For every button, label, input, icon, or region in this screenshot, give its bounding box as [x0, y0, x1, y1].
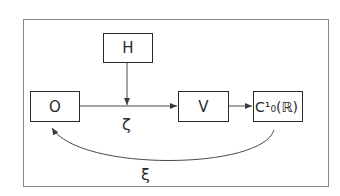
edge-label-zeta: ζ — [122, 117, 131, 133]
edge-c-to-o-curve — [52, 128, 274, 161]
node-v-label: V — [198, 98, 208, 116]
node-o-label: O — [49, 98, 61, 116]
node-h: H — [103, 33, 153, 63]
node-h-label: H — [122, 39, 133, 57]
node-o: O — [30, 91, 80, 122]
node-c: C¹₀(ℝ) — [253, 91, 303, 122]
edge-label-xi: ξ — [141, 167, 150, 183]
node-c-label: C¹₀(ℝ) — [255, 99, 298, 115]
node-v: V — [178, 91, 229, 122]
